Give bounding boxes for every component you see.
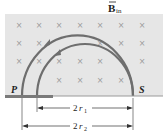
- field-label: B in: [108, 2, 122, 15]
- arrow-right-icon: [127, 106, 133, 110]
- x-mark: ×: [118, 76, 125, 85]
- x-mark: ×: [77, 21, 84, 30]
- x-mark: ×: [36, 39, 43, 48]
- x-mark: ×: [36, 57, 43, 66]
- x-mark: ×: [77, 76, 84, 85]
- field-label-main: B: [108, 2, 116, 14]
- x-mark: ×: [97, 21, 104, 30]
- svg-text:r: r: [79, 121, 83, 131]
- arrow-right-icon: [127, 124, 133, 128]
- point-label-s: S: [139, 84, 145, 95]
- x-mark: ×: [16, 57, 23, 66]
- x-mark: ×: [118, 39, 125, 48]
- mass-spectrometer-diagram: × × × × × × × × × × × × × × × × × × × × …: [0, 0, 163, 140]
- svg-text:r: r: [79, 103, 83, 113]
- x-mark: ×: [56, 21, 63, 30]
- x-mark: ×: [16, 39, 23, 48]
- arrow-left-icon: [37, 106, 43, 110]
- svg-text:2: 2: [84, 126, 87, 132]
- svg-text:1: 1: [84, 108, 87, 114]
- x-mark: ×: [97, 76, 104, 85]
- x-mark: ×: [97, 57, 104, 66]
- arrow-left-icon: [22, 124, 28, 128]
- field-label-subscript: in: [116, 7, 122, 15]
- x-mark: ×: [118, 21, 125, 30]
- svg-text:2: 2: [73, 103, 78, 113]
- x-mark: ×: [36, 21, 43, 30]
- point-label-p: P: [11, 84, 18, 95]
- detector-plate-left: [5, 95, 53, 98]
- x-mark: ×: [56, 57, 63, 66]
- x-mark: ×: [139, 57, 146, 66]
- x-mark: ×: [139, 39, 146, 48]
- x-mark: ×: [139, 21, 146, 30]
- dimension-2r1: 2 r 1: [37, 103, 133, 114]
- x-mark: ×: [77, 57, 84, 66]
- dimension-2r2: 2 r 2: [22, 121, 133, 132]
- x-mark: ×: [16, 21, 23, 30]
- x-mark: ×: [56, 76, 63, 85]
- svg-text:2: 2: [73, 121, 78, 131]
